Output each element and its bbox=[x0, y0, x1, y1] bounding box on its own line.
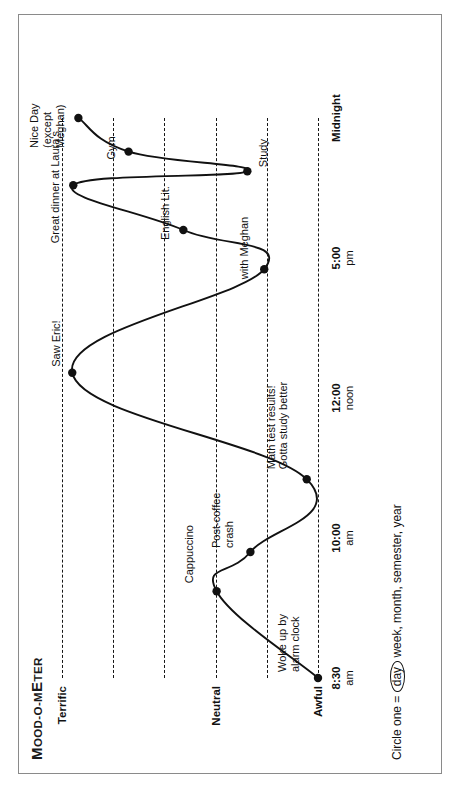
annotation-0: Woke up by alarm clock bbox=[276, 614, 301, 672]
x-tick-time: 5:00 bbox=[330, 246, 343, 269]
page-title-smallcaps-1: OOD-O-M bbox=[32, 692, 44, 747]
caption-prefix: Circle one = bbox=[390, 692, 404, 760]
x-tick-time: 8:30 bbox=[330, 666, 343, 689]
data-point-1 bbox=[212, 587, 220, 595]
annotation-9: Gym bbox=[105, 136, 118, 159]
data-point-3 bbox=[303, 475, 311, 483]
data-point-5 bbox=[260, 265, 268, 273]
x-axis-tick-4: Midnight bbox=[330, 94, 343, 142]
data-point-0 bbox=[314, 674, 322, 682]
data-point-6 bbox=[179, 226, 187, 234]
x-axis-tick-3: 5:00pm bbox=[330, 246, 355, 269]
x-tick-meridiem: am bbox=[343, 523, 355, 552]
gridline-awful bbox=[318, 118, 319, 678]
x-tick-time: 10:00 bbox=[330, 523, 343, 552]
annotation-5: with Meghan bbox=[238, 217, 251, 279]
annotation-4: Saw Eric! bbox=[50, 320, 63, 366]
x-axis-tick-2: 12:00noon bbox=[330, 383, 355, 412]
x-tick-time: Midnight bbox=[330, 94, 343, 142]
page-title-cap-2: E bbox=[28, 682, 45, 692]
data-point-4 bbox=[68, 369, 76, 377]
caption: Circle one = day week, month, semester, … bbox=[390, 504, 405, 760]
data-point-10 bbox=[74, 114, 82, 122]
y-axis-label-neutral: Neutral bbox=[210, 678, 222, 726]
page-title-smallcaps-2: TER bbox=[32, 657, 44, 681]
data-point-8 bbox=[243, 167, 251, 175]
x-tick-meridiem: noon bbox=[343, 383, 355, 412]
annotation-1: Cappuccino bbox=[183, 525, 196, 583]
page-title: MOOD-O-METER bbox=[28, 657, 45, 760]
caption-circled-option[interactable]: day bbox=[390, 661, 405, 692]
data-point-2 bbox=[246, 548, 254, 556]
data-point-7 bbox=[69, 181, 77, 189]
annotation-6: English Lit. bbox=[159, 186, 172, 240]
y-axis-label-terrific: Terrific bbox=[56, 678, 68, 724]
worksheet-page: MOOD-O-METER TerrificNeutralAwful Woke u… bbox=[0, 0, 468, 788]
x-tick-meridiem: am bbox=[343, 666, 355, 689]
annotation-2: Post-coffee crash bbox=[210, 493, 235, 548]
annotation-8: Study bbox=[257, 139, 270, 167]
annotation-10: Nice Day (except Meghan) bbox=[28, 103, 66, 148]
y-axis-label-awful: Awful bbox=[312, 678, 324, 717]
plot-area: TerrificNeutralAwful Woke up by alarm cl… bbox=[62, 118, 318, 678]
caption-options: week, month, semester, year bbox=[390, 504, 404, 661]
x-tick-time: 12:00 bbox=[330, 383, 343, 412]
mood-o-meter-chart: MOOD-O-METER TerrificNeutralAwful Woke u… bbox=[18, 14, 442, 774]
x-tick-meridiem: pm bbox=[343, 246, 355, 269]
annotation-3: Math test results! Gotta study better bbox=[265, 382, 290, 469]
x-axis-tick-1: 10:00am bbox=[330, 523, 355, 552]
page-title-cap: M bbox=[28, 747, 45, 760]
x-axis-tick-0: 8:30am bbox=[330, 666, 355, 689]
data-point-9 bbox=[124, 147, 132, 155]
